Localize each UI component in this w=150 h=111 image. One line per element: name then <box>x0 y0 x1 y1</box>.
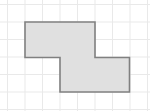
shape-layer <box>0 0 150 111</box>
z-hexomino-polygon <box>25 22 130 92</box>
figure-canvas <box>0 0 150 111</box>
